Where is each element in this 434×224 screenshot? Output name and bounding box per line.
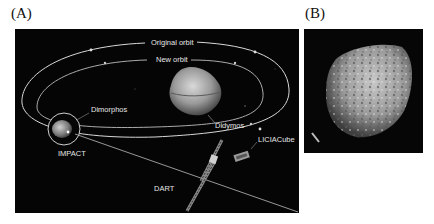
liciacube-label: LICIACube xyxy=(258,135,295,144)
dimorphos-label: Dimorphos xyxy=(91,105,128,114)
panel-b-label: (B) xyxy=(305,5,325,22)
liciacube-spacecraft xyxy=(233,142,257,162)
impact-label: IMPACT xyxy=(58,149,86,158)
panel-a-label: (A) xyxy=(11,5,32,22)
panel-b-image xyxy=(304,29,423,153)
debris-fragment xyxy=(312,133,319,142)
original-orbit-label: Original orbit xyxy=(151,38,194,47)
didymos-asteroid xyxy=(169,67,221,123)
dart-spacecraft xyxy=(187,140,222,211)
new-orbit-label: New orbit xyxy=(156,55,189,64)
panel-a-diagram: Original orbit New orbit Didymos Dimorph… xyxy=(15,29,299,213)
didymos-label: Didymos xyxy=(215,121,244,130)
dimorphos-asteroid xyxy=(326,45,412,138)
dimorphos-photo xyxy=(304,29,423,153)
dart-trajectory xyxy=(75,134,298,212)
orbit-diagram: Original orbit New orbit Didymos Dimorph… xyxy=(15,29,299,213)
impact-circle xyxy=(48,113,80,145)
dart-label: DART xyxy=(154,184,175,193)
